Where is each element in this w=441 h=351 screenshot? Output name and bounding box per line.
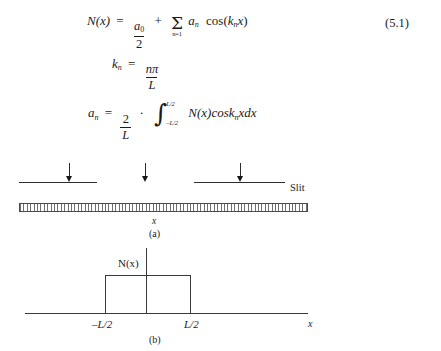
equals-sign: = [116, 13, 123, 28]
summation-lower-limit: n=1 [172, 31, 182, 38]
equation-5-1-lhs: N(x) [87, 13, 110, 28]
fraction-2-over-L: 2 L [120, 113, 131, 142]
equation-number: (5.1) [385, 16, 409, 31]
figure-b-panel-label: (b) [149, 334, 161, 345]
integral-upper-limit: L/2 [166, 101, 178, 108]
slit-label: Slit [290, 182, 305, 193]
fraction-a0-over-2: a0 2 [132, 20, 146, 50]
kn-subscript: n [118, 63, 122, 72]
integral-symbol: ∫ L/2 –L/2 [154, 103, 178, 124]
summation-symbol: Σ n=1 [171, 16, 183, 37]
fraction-numerator: a0 [132, 20, 146, 35]
multiplication-dot: · [140, 105, 144, 120]
plus-sign: + [154, 13, 161, 28]
integral-lower-limit: –L/2 [166, 120, 178, 127]
kn-equals-sign: = [128, 56, 135, 71]
arrow-head-icon [142, 176, 148, 182]
incident-beam-arrow-right [237, 163, 244, 183]
hatched-detector-bar [19, 203, 308, 212]
arrow-head-icon [66, 176, 72, 182]
equation-an: an = 2 L · ∫ L/2 –L/2 N(x)cosknxdx [88, 103, 257, 141]
equation-5-1: N(x) = a0 2 + Σ n=1 an cos(knx) [87, 14, 248, 51]
figure-page: N(x) = a0 2 + Σ n=1 an cos(knx) (5.1) kn… [0, 0, 441, 351]
close-paren: ) [243, 13, 247, 28]
integrand-xdx: xdx [239, 105, 257, 120]
figure-b-tick-label-right: L/2 [184, 318, 199, 330]
an-subscript: n [95, 113, 99, 122]
screen-segment-left [19, 182, 97, 183]
incident-beam-arrow-left [66, 163, 73, 183]
arrow-head-icon [237, 176, 243, 182]
incident-beam-arrow-middle [142, 163, 149, 183]
coefficient-subscript-n: n [195, 20, 199, 29]
equation-kn: kn = nπ L [112, 57, 162, 92]
figure-a: Slit x (a) [0, 150, 441, 245]
figure-b-x-axis-label: x [308, 318, 312, 329]
sigma-glyph: Σ [171, 16, 183, 31]
arrow-shaft [69, 163, 70, 177]
kn-numerator: nπ [144, 63, 161, 77]
pi-symbol: π [152, 62, 158, 76]
kn-denominator: L [146, 77, 157, 92]
integrand-N-cos: N(x)cos [188, 105, 228, 120]
figure-a-x-axis-label: x [152, 216, 156, 226]
subscript-0: 0 [140, 26, 144, 35]
figure-b-x-axis [25, 313, 308, 314]
rectangular-pulse-curve [105, 275, 191, 313]
integral-limits: L/2 –L/2 [166, 103, 178, 124]
fraction-denominator: 2 [134, 36, 144, 51]
figure-b-curve-label: N(x) [118, 257, 139, 269]
figure-a-panel-label: (a) [149, 228, 160, 239]
fraction-npi-over-L: nπ L [144, 63, 161, 92]
an-equals-sign: = [105, 105, 112, 120]
arrow-shaft [240, 163, 241, 177]
an-denominator: L [120, 127, 131, 142]
arrow-shaft [145, 163, 146, 177]
figure-b-tick-label-left: –L/2 [92, 318, 112, 330]
an-numerator: 2 [121, 113, 131, 127]
figure-b: N(x) –L/2 L/2 x (b) [0, 248, 441, 351]
cos-function: cos( [206, 13, 228, 28]
